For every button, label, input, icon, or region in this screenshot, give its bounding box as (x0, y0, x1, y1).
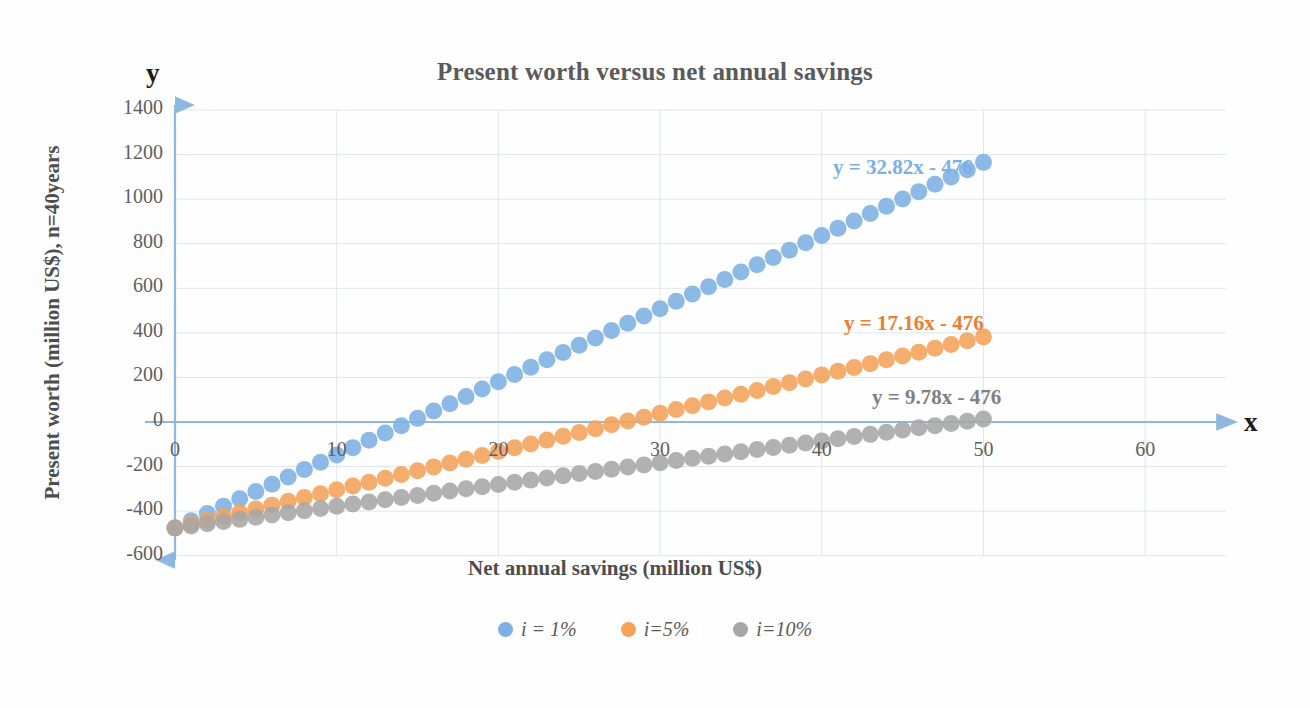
data-point (538, 351, 555, 368)
y-tick-label: 1200 (87, 141, 163, 164)
data-point (894, 347, 911, 364)
data-point (668, 293, 685, 310)
data-point (571, 465, 588, 482)
data-point (425, 458, 442, 475)
data-point (846, 212, 863, 229)
data-point (716, 445, 733, 462)
equation-label-gray: y = 9.78x - 476 (872, 385, 1001, 410)
data-point (474, 478, 491, 495)
data-point (522, 472, 539, 489)
data-point (571, 424, 588, 441)
data-point (619, 412, 636, 429)
data-point (878, 351, 895, 368)
data-point (441, 455, 458, 472)
data-point (587, 329, 604, 346)
legend-item-3[interactable]: i=10% (733, 618, 812, 641)
data-point (652, 405, 669, 422)
data-point (910, 183, 927, 200)
data-point (700, 278, 717, 295)
data-point (732, 386, 749, 403)
data-point (555, 467, 572, 484)
data-point (474, 381, 491, 398)
data-point (312, 500, 329, 517)
data-point (765, 249, 782, 266)
legend-item-1[interactable]: i = 1% (498, 618, 577, 641)
y-tick-label: -400 (87, 497, 163, 520)
data-point (668, 401, 685, 418)
y-tick-label: 600 (87, 274, 163, 297)
data-point (409, 487, 426, 504)
y-tick-label: 1400 (87, 96, 163, 119)
data-point (635, 307, 652, 324)
data-point (361, 493, 378, 510)
x-tick-label: 20 (468, 438, 528, 461)
data-point (926, 417, 943, 434)
data-point (441, 483, 458, 500)
data-point (490, 373, 507, 390)
data-point (571, 337, 588, 354)
data-point (587, 420, 604, 437)
data-point (716, 271, 733, 288)
data-point (700, 448, 717, 465)
data-point (813, 367, 830, 384)
data-point (425, 485, 442, 502)
data-point (619, 315, 636, 332)
data-point (441, 395, 458, 412)
data-point (587, 463, 604, 480)
data-point (652, 300, 669, 317)
data-point (781, 374, 798, 391)
data-point (862, 205, 879, 222)
x-tick-label: 0 (145, 438, 205, 461)
data-point (700, 393, 717, 410)
legend-label: i=10% (756, 618, 812, 641)
data-point (635, 409, 652, 426)
data-point (377, 491, 394, 508)
data-point (732, 443, 749, 460)
equation-label-blue: y = 32.82x - 476 (833, 155, 973, 180)
data-point (328, 498, 345, 515)
data-point (425, 403, 442, 420)
data-point (862, 426, 879, 443)
data-point (910, 344, 927, 361)
data-point (377, 424, 394, 441)
data-point (959, 413, 976, 430)
data-point (603, 461, 620, 478)
data-point (749, 256, 766, 273)
data-point (797, 234, 814, 251)
data-point (183, 517, 200, 534)
data-point (167, 520, 184, 537)
data-point (781, 242, 798, 259)
data-point (894, 190, 911, 207)
data-point (878, 198, 895, 215)
data-point (684, 397, 701, 414)
y-tick-label: 1000 (87, 185, 163, 208)
equation-label-orange: y = 17.16x - 476 (844, 311, 984, 336)
data-point (619, 459, 636, 476)
data-point (409, 462, 426, 479)
legend-marker-icon (733, 622, 748, 637)
data-point (344, 496, 361, 513)
data-point (538, 469, 555, 486)
data-point (393, 489, 410, 506)
y-tick-label: -600 (87, 542, 163, 565)
legend-item-2[interactable]: i=5% (621, 618, 690, 641)
data-point (393, 417, 410, 434)
data-point (490, 476, 507, 493)
data-point (846, 359, 863, 376)
data-point (247, 509, 264, 526)
data-point (506, 366, 523, 383)
data-point (264, 476, 281, 493)
data-point (344, 478, 361, 495)
data-point (765, 378, 782, 395)
x-tick-label: 40 (792, 438, 852, 461)
data-point (264, 506, 281, 523)
data-point (878, 424, 895, 441)
data-point (506, 474, 523, 491)
data-point (829, 220, 846, 237)
data-point (829, 363, 846, 380)
data-point (377, 470, 394, 487)
data-points-layer (167, 154, 992, 537)
data-point (280, 468, 297, 485)
data-point (296, 502, 313, 519)
legend-label: i=5% (644, 618, 690, 641)
